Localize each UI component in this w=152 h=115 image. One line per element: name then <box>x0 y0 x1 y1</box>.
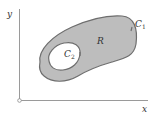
origin-marker <box>18 99 22 103</box>
y-axis-label: y <box>6 9 13 19</box>
region-r <box>39 16 136 81</box>
outer-curve-label: C1 <box>135 19 146 30</box>
inner-curve-label: C2 <box>64 49 75 60</box>
region-diagram: y x R C1 C2 <box>0 0 152 115</box>
region-label: R <box>96 36 104 46</box>
x-axis-label: x <box>142 104 147 114</box>
